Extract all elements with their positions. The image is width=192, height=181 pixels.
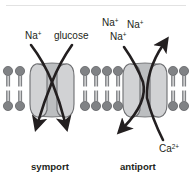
lipid-segment-left (3, 66, 24, 110)
antiport-caption: antiport (120, 161, 157, 172)
lipid-segment-right (168, 66, 188, 110)
symport-protein-lobe-left (30, 64, 47, 117)
sodium-label-antiport-2: Na+ (127, 19, 144, 31)
panel-captions: symport antiport (31, 161, 157, 172)
phospholipid (113, 66, 122, 86)
phospholipid (179, 91, 188, 111)
symport-caption: symport (31, 161, 70, 172)
sodium-label-antiport-1: Na+ (102, 17, 119, 29)
phospholipid (113, 91, 122, 111)
transport-diagram-figure: Na+ glucose Na+ Na+ Na+ Ca2+ symport ant… (0, 0, 192, 181)
phospholipid (168, 66, 177, 86)
calcium-label: Ca2+ (159, 143, 179, 155)
phospholipid (3, 91, 12, 111)
sodium-label-symport: Na+ (25, 30, 42, 42)
phospholipid (102, 91, 111, 111)
phospholipid (179, 66, 188, 86)
sodium-label-antiport-3: Na+ (110, 31, 127, 43)
diagram-canvas: Na+ glucose Na+ Na+ Na+ Ca2+ symport ant… (0, 0, 192, 181)
phospholipid (91, 66, 100, 86)
symport-transporter-protein (30, 63, 74, 117)
lipid-segment-middle (80, 66, 122, 110)
symport-protein-lobe-right (57, 64, 74, 117)
glucose-label: glucose (54, 30, 89, 41)
phospholipid (168, 91, 177, 111)
phospholipid (80, 66, 89, 86)
phospholipid (15, 66, 24, 86)
phospholipid (15, 91, 24, 111)
phospholipid (102, 66, 111, 86)
phospholipid (91, 91, 100, 111)
antiport-protein-lobe-right (150, 64, 167, 117)
phospholipid (80, 91, 89, 111)
phospholipid (3, 66, 12, 86)
